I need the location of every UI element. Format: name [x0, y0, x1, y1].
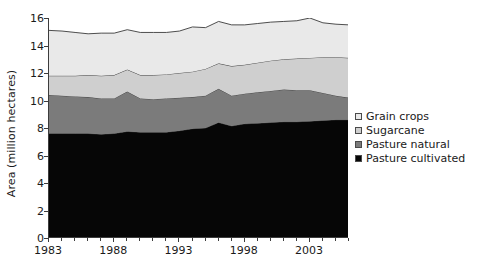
x-axis-ticks: 19831988199319982003 — [48, 238, 349, 266]
x-tick-mark — [270, 238, 271, 241]
legend-item: Sugarcane — [355, 124, 475, 137]
x-tick-mark — [231, 238, 232, 241]
x-tick-label: 2003 — [286, 244, 332, 257]
legend-item: Grain crops — [355, 110, 475, 123]
x-tick-mark — [100, 238, 101, 241]
x-tick-mark — [87, 238, 88, 241]
x-tick-label: 1998 — [221, 244, 267, 257]
x-tick-mark — [283, 238, 284, 241]
y-tick-label: 6 — [4, 150, 44, 161]
stacked-area-chart: Area (million hectares) 0246810121416 19… — [0, 0, 478, 267]
y-tick-label: 16 — [4, 13, 44, 24]
legend-item: Pasture natural — [355, 138, 475, 151]
legend-swatch-icon — [355, 141, 362, 148]
x-tick-label: 1983 — [25, 244, 71, 257]
x-tick-mark — [61, 238, 62, 241]
legend-item-label: Pasture cultivated — [366, 152, 465, 165]
x-tick-label: 1993 — [155, 244, 201, 257]
y-tick-label: 10 — [4, 95, 44, 106]
x-tick-mark — [205, 238, 206, 241]
x-tick-label: 1988 — [90, 244, 136, 257]
stacked-area-series — [49, 18, 348, 238]
area-band — [49, 120, 348, 238]
legend-item-label: Sugarcane — [366, 124, 425, 137]
x-tick-mark — [178, 238, 179, 242]
x-tick-mark — [192, 238, 193, 241]
x-tick-mark — [126, 238, 127, 241]
x-tick-mark — [257, 238, 258, 241]
legend-item: Pasture cultivated — [355, 152, 475, 165]
legend-item-label: Pasture natural — [366, 138, 450, 151]
x-tick-mark — [113, 238, 114, 242]
x-tick-mark — [348, 238, 349, 241]
y-tick-label: 4 — [4, 178, 44, 189]
x-tick-mark — [74, 238, 75, 241]
plot-area — [48, 18, 348, 238]
y-tick-label: 0 — [4, 233, 44, 244]
y-tick-label: 8 — [4, 123, 44, 134]
x-tick-mark — [309, 238, 310, 242]
x-tick-mark — [335, 238, 336, 241]
x-tick-mark — [322, 238, 323, 241]
x-tick-mark — [152, 238, 153, 241]
x-tick-mark — [139, 238, 140, 241]
y-axis-ticks: 0246810121416 — [0, 0, 44, 267]
x-tick-mark — [218, 238, 219, 241]
y-tick-label: 14 — [4, 40, 44, 51]
x-tick-mark — [165, 238, 166, 241]
chart-legend: Grain cropsSugarcanePasture naturalPastu… — [355, 110, 475, 166]
legend-item-label: Grain crops — [366, 110, 429, 123]
y-tick-label: 12 — [4, 68, 44, 79]
y-tick-label: 2 — [4, 205, 44, 216]
x-tick-mark — [48, 238, 49, 242]
legend-swatch-icon — [355, 113, 362, 120]
x-tick-mark — [296, 238, 297, 241]
x-tick-mark — [244, 238, 245, 242]
legend-swatch-icon — [355, 127, 362, 134]
legend-swatch-icon — [355, 155, 362, 162]
